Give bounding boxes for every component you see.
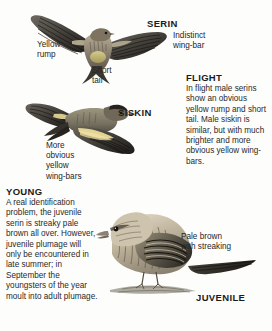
young-section-body: A real identification problem, the juven… bbox=[6, 198, 98, 302]
siskin-heading: SISKIN bbox=[118, 107, 152, 118]
flight-section-title: FLIGHT bbox=[186, 72, 222, 83]
short-tail-label: Short tail bbox=[92, 66, 112, 86]
yellow-rump-label: Yellow rump bbox=[37, 40, 60, 60]
field-guide-page: SERIN Yellow rump Short tail Indistinct … bbox=[0, 0, 272, 331]
pale-brown-streaking-label: Pale brown with streaking bbox=[181, 232, 231, 252]
juvenile-heading: JUVENILE bbox=[196, 292, 245, 303]
indistinct-wing-bar-label: Indistinct wing-bar bbox=[173, 31, 205, 51]
serin-heading: SERIN bbox=[147, 18, 178, 29]
young-section-title: YOUNG bbox=[6, 186, 42, 197]
siskin-in-flight-illustration bbox=[14, 92, 159, 172]
more-obvious-yellow-wing-bars-label: More obvious yellow wing-bars bbox=[46, 141, 82, 182]
flight-section-body: In flight male serins show an obvious ye… bbox=[186, 84, 268, 167]
